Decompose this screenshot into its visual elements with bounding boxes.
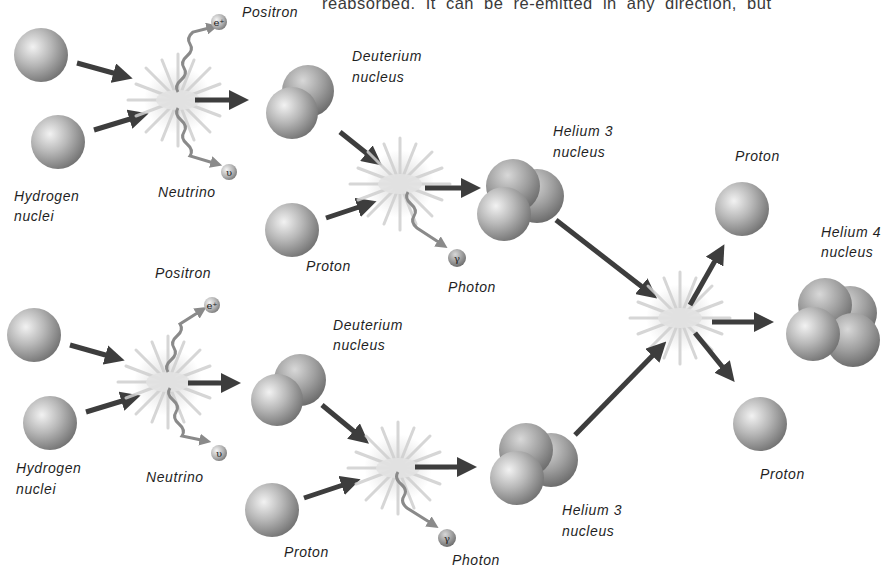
hydrogen-nucleus-sphere — [14, 28, 68, 82]
arrow-icon — [77, 63, 124, 76]
deuterium-label-line2: nucleus — [333, 335, 385, 355]
helium4-label-line1: Helium 4 — [821, 222, 881, 242]
neutrino-label: Neutrino — [146, 467, 204, 487]
helium4-nucleus — [786, 278, 880, 367]
proton-sphere — [265, 203, 319, 257]
neutrino-label: Neutrino — [158, 182, 216, 202]
photon-badge: γ — [448, 249, 466, 267]
helium3-nucleus — [477, 159, 564, 241]
neutrino-badge: υ — [221, 164, 237, 180]
deuterium-label-line1: Deuterium — [352, 46, 422, 66]
helium3-nucleus — [490, 423, 578, 505]
helium4-label-line2: nucleus — [821, 242, 873, 262]
positron-label: Positron — [242, 2, 298, 22]
proton-label: Proton — [306, 256, 351, 276]
deuterium-label-line2: nucleus — [352, 67, 404, 87]
helium3-label-line1: Helium 3 — [562, 500, 622, 520]
proton-top-label: Proton — [735, 146, 780, 166]
hydrogen-nucleus-sphere — [31, 115, 85, 169]
deuterium-nucleus-sphere — [266, 87, 318, 139]
hydrogen-label-line1: Hydrogen — [16, 458, 82, 478]
hydrogen-nucleus-sphere — [7, 308, 61, 362]
arrow-icon — [322, 405, 362, 438]
photon-badge: γ — [438, 529, 456, 547]
helium3-label-line2: nucleus — [562, 521, 614, 541]
photon-label: Photon — [452, 550, 500, 566]
hydrogen-label-line2: nuclei — [14, 206, 54, 226]
helium3-label-line1: Helium 3 — [553, 121, 613, 141]
fusion-burst-icon — [630, 272, 730, 364]
arrow-icon — [86, 398, 132, 412]
positron-symbol-icon: e⁺ — [213, 17, 224, 28]
photon-symbol-icon: γ — [444, 533, 450, 544]
helium3-label-line2: nucleus — [553, 142, 605, 162]
positron-label: Positron — [155, 263, 211, 283]
positron-symbol-icon: e⁺ — [206, 300, 217, 311]
proton-sphere — [733, 397, 787, 451]
positron-badge: e⁺ — [204, 297, 220, 313]
positron-badge: e⁺ — [211, 14, 227, 30]
neutrino-badge: υ — [211, 445, 227, 461]
proton-proton-chain-diagram: e⁺ υ γ — [0, 0, 892, 566]
arrow-icon — [556, 220, 650, 293]
proton-bottom-label: Proton — [760, 464, 805, 484]
proton-sphere — [715, 182, 769, 236]
photon-label: Photon — [448, 277, 496, 297]
arrow-icon — [304, 482, 352, 498]
arrow-icon — [70, 345, 116, 358]
neutrino-symbol-icon: υ — [216, 448, 222, 459]
arrow-icon — [326, 204, 368, 218]
deuterium-nucleus-sphere — [251, 374, 303, 426]
hydrogen-label-line1: Hydrogen — [14, 186, 80, 206]
photon-symbol-icon: γ — [454, 253, 460, 264]
arrow-icon — [695, 333, 729, 375]
hydrogen-label-line2: nuclei — [16, 479, 56, 499]
deuterium-label-line1: Deuterium — [333, 315, 403, 335]
proton-label: Proton — [284, 542, 329, 562]
arrow-icon — [94, 116, 140, 130]
proton-sphere — [245, 483, 299, 537]
arrow-icon — [575, 348, 660, 435]
hydrogen-nucleus-sphere — [23, 396, 77, 450]
neutrino-symbol-icon: υ — [226, 167, 232, 178]
